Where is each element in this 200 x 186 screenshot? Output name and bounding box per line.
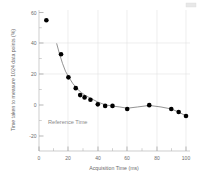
data-point <box>184 114 189 119</box>
scatter-plot-svg: 60 40 20 0 -20 0 20 40 60 80 100 Acquisi… <box>0 0 200 186</box>
data-point <box>82 95 87 100</box>
data-point <box>103 104 108 109</box>
data-point <box>96 102 101 107</box>
data-point <box>88 97 93 102</box>
grid-lines <box>39 10 190 151</box>
chart-figure: 60 40 20 0 -20 0 20 40 60 80 100 Acquisi… <box>0 0 200 186</box>
y-axis-title: Time taken to measure 1024 data points (… <box>10 29 16 131</box>
data-point <box>73 86 78 91</box>
y-axis-ticks <box>39 13 44 137</box>
y-tick-label: 20 <box>31 71 37 77</box>
data-point <box>110 104 115 109</box>
data-point <box>59 52 64 57</box>
fit-trend-line <box>57 43 186 116</box>
data-point <box>169 107 174 112</box>
x-tick-label: 0 <box>38 155 41 161</box>
data-point <box>44 18 49 23</box>
reference-time-annotation: Reference Time <box>48 119 87 125</box>
x-tick-label: 60 <box>124 155 130 161</box>
x-axis-ticks <box>39 147 186 152</box>
y-tick-label: -20 <box>29 133 36 139</box>
y-tick-labels: 60 40 20 0 -20 <box>29 10 36 140</box>
y-tick-label: 0 <box>34 102 37 108</box>
x-tick-labels: 0 20 40 60 80 100 <box>38 155 191 161</box>
x-tick-label: 100 <box>182 155 191 161</box>
data-point <box>147 103 152 108</box>
y-tick-label: 60 <box>31 10 37 16</box>
data-point <box>125 107 130 112</box>
data-point <box>78 93 83 98</box>
corner-mark <box>186 3 196 7</box>
y-tick-label: 40 <box>31 40 37 46</box>
data-point-group <box>44 18 188 118</box>
data-point <box>176 110 181 115</box>
x-axis-title: Acquisition Time (ms) <box>89 165 139 171</box>
x-tick-label: 20 <box>65 155 71 161</box>
axis-frame <box>39 10 190 151</box>
x-tick-label: 40 <box>95 155 101 161</box>
data-point <box>66 75 71 80</box>
x-tick-label: 80 <box>154 155 160 161</box>
